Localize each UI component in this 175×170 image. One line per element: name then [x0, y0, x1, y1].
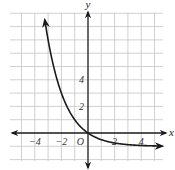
y-tick-label: 4	[79, 74, 84, 85]
origin-label: O	[77, 136, 84, 147]
y-axis-label: y	[85, 0, 91, 10]
x-tick-label: 2	[112, 136, 117, 147]
x-tick-label: −4	[29, 136, 41, 147]
y-tick-label: 2	[79, 101, 84, 112]
x-tick-label: 4	[139, 136, 144, 147]
graph: −4−22424Oxy	[0, 0, 175, 170]
x-axis-label: x	[168, 126, 174, 138]
x-tick-label: −2	[56, 136, 68, 147]
function-curve	[45, 20, 163, 146]
